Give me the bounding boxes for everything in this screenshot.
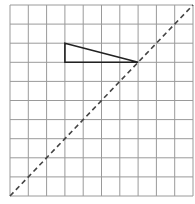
grid-diagram <box>0 0 195 204</box>
diagram-svg <box>0 0 195 204</box>
